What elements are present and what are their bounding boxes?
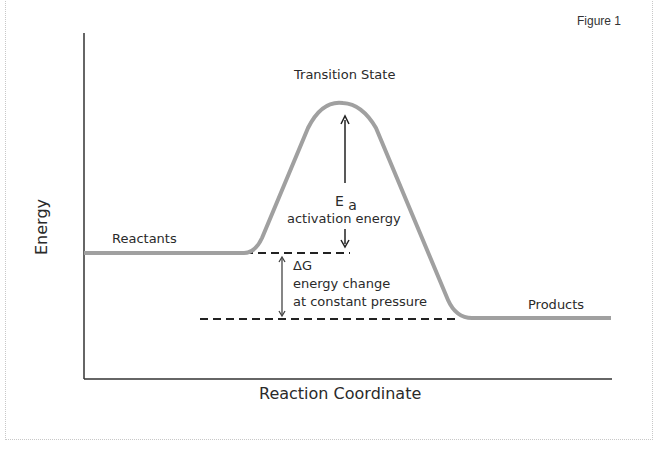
dg-symbol: ΔG	[293, 258, 312, 273]
x-axis-label: Reaction Coordinate	[259, 384, 421, 403]
products-label: Products	[528, 297, 584, 312]
reactants-label: Reactants	[112, 231, 177, 246]
y-axis-label: Energy	[32, 199, 51, 255]
dg-description-1: energy change	[293, 276, 390, 291]
ea-label: E a	[335, 193, 357, 209]
transition-state-label: Transition State	[294, 67, 395, 82]
dg-description-2: at constant pressure	[293, 294, 427, 309]
ea-description: activation energy	[287, 211, 401, 226]
ea-symbol: E	[335, 193, 344, 209]
